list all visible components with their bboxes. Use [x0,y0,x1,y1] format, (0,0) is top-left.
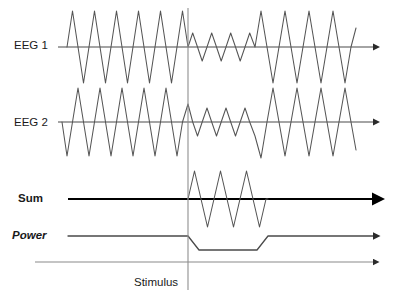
eeg1-label: EEG 1 [14,40,48,52]
eeg2-label: EEG 2 [14,117,48,129]
power-label: Power [12,230,47,242]
stimulus-label: Stimulus [134,277,178,289]
power-trace [68,236,374,250]
eeg-waveform-canvas [0,0,399,299]
eeg2-trace [62,88,356,158]
sum-label: Sum [18,193,43,205]
eeg-figure: EEG 1 EEG 2 Sum Power Stimulus [0,0,399,299]
